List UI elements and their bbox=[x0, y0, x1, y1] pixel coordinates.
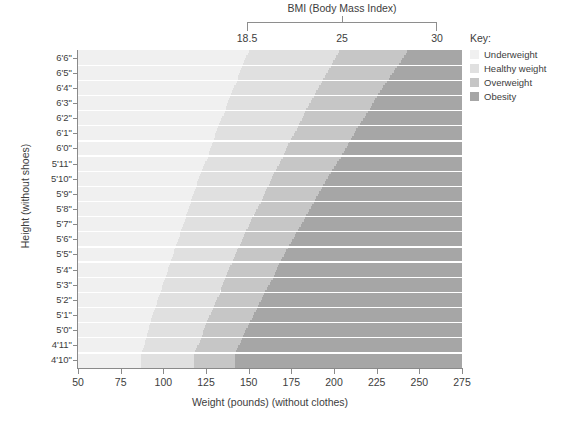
y-axis-tick bbox=[73, 315, 77, 316]
legend-item-label: Healthy weight bbox=[484, 63, 546, 74]
legend-items: UnderweightHealthy weightOverweightObesi… bbox=[470, 49, 566, 102]
legend-item-label: Underweight bbox=[484, 49, 537, 60]
x-axis-tick bbox=[121, 369, 122, 374]
y-axis-tick bbox=[73, 224, 77, 225]
gridline bbox=[78, 352, 462, 353]
y-axis-tick-label: 6'3" bbox=[28, 97, 72, 108]
gridline bbox=[78, 65, 462, 66]
x-axis-tick bbox=[163, 369, 164, 374]
y-axis-tick-label: 5'7" bbox=[28, 218, 72, 229]
legend-swatch-icon bbox=[470, 64, 479, 73]
gridline bbox=[78, 246, 462, 247]
gridline bbox=[78, 292, 462, 293]
y-axis-tick bbox=[73, 88, 77, 89]
gridline bbox=[78, 337, 462, 338]
legend-item: Overweight bbox=[470, 77, 566, 88]
legend-item-label: Obesity bbox=[484, 91, 516, 102]
gridline bbox=[78, 80, 462, 81]
y-axis-tick bbox=[73, 164, 77, 165]
x-axis-tick-label: 275 bbox=[453, 376, 471, 388]
gridline bbox=[78, 322, 462, 323]
y-axis-tick-label: 6'6" bbox=[28, 52, 72, 63]
plot-area bbox=[78, 50, 462, 368]
x-axis-line bbox=[77, 368, 463, 369]
y-axis-tick bbox=[73, 118, 77, 119]
x-axis-tick-label: 100 bbox=[155, 376, 173, 388]
y-axis-tick bbox=[73, 300, 77, 301]
y-axis-tick-label: 6'1" bbox=[28, 127, 72, 138]
gridline bbox=[78, 186, 462, 187]
gridline bbox=[78, 140, 462, 141]
y-axis-tick-label: 5'9" bbox=[28, 188, 72, 199]
y-axis-tick bbox=[73, 73, 77, 74]
y-axis-tick-label: 5'5" bbox=[28, 248, 72, 259]
x-axis-tick bbox=[419, 369, 420, 374]
x-axis-tick bbox=[377, 369, 378, 374]
y-axis-tick-label: 5'10" bbox=[28, 173, 72, 184]
x-axis-tick-label: 50 bbox=[72, 376, 84, 388]
x-axis-tick-label: 175 bbox=[283, 376, 301, 388]
y-axis-tick bbox=[73, 270, 77, 271]
y-axis-tick bbox=[73, 209, 77, 210]
y-axis-tick-label: 5'6" bbox=[28, 233, 72, 244]
gridline bbox=[78, 125, 462, 126]
y-axis-tick bbox=[73, 58, 77, 59]
legend-swatch-icon bbox=[470, 92, 479, 101]
x-axis-tick bbox=[291, 369, 292, 374]
y-axis-tick bbox=[73, 148, 77, 149]
y-axis-title: Height (without shoes) bbox=[19, 101, 31, 291]
y-axis-tick-label: 6'4" bbox=[28, 82, 72, 93]
y-axis-tick-label: 5'8" bbox=[28, 203, 72, 214]
x-axis-tick-label: 125 bbox=[197, 376, 215, 388]
x-axis-tick bbox=[334, 369, 335, 374]
gridline bbox=[78, 277, 462, 278]
bmi-axis-mid-tick bbox=[342, 16, 343, 23]
x-axis-tick-label: 225 bbox=[368, 376, 386, 388]
gridline bbox=[78, 231, 462, 232]
y-axis-tick bbox=[73, 360, 77, 361]
gridline bbox=[78, 95, 462, 96]
y-axis-tick bbox=[73, 103, 77, 104]
y-axis-tick bbox=[73, 239, 77, 240]
x-axis-tick bbox=[249, 369, 250, 374]
y-axis-tick bbox=[73, 254, 77, 255]
y-axis-tick-label: 5'11" bbox=[28, 158, 72, 169]
x-axis-tick bbox=[462, 369, 463, 374]
bmi-chart: BMI (Body Mass Index) 18.52530 6'6"6'5"6… bbox=[0, 0, 566, 421]
x-axis-tick bbox=[206, 369, 207, 374]
y-axis-tick-label: 6'0" bbox=[28, 142, 72, 153]
legend-item: Healthy weight bbox=[470, 63, 566, 74]
y-axis-tick bbox=[73, 345, 77, 346]
gridline bbox=[78, 171, 462, 172]
y-axis-tick-label: 5'2" bbox=[28, 294, 72, 305]
y-axis-tick-label: 6'5" bbox=[28, 67, 72, 78]
y-axis-tick bbox=[73, 133, 77, 134]
x-axis-tick bbox=[78, 369, 79, 374]
gridline bbox=[78, 201, 462, 202]
legend-item: Underweight bbox=[470, 49, 566, 60]
gridline bbox=[78, 307, 462, 308]
gridline bbox=[78, 155, 462, 156]
x-axis-tick-label: 75 bbox=[115, 376, 127, 388]
legend-item: Obesity bbox=[470, 91, 566, 102]
legend-swatch-icon bbox=[470, 78, 479, 87]
y-axis-tick bbox=[73, 194, 77, 195]
x-axis-tick-label: 250 bbox=[411, 376, 429, 388]
bmi-tick-label: 25 bbox=[329, 32, 355, 44]
y-axis-tick-label: 6'2" bbox=[28, 112, 72, 123]
y-axis-tick bbox=[73, 330, 77, 331]
y-axis-tick bbox=[73, 179, 77, 180]
y-axis-tick-label: 5'0" bbox=[28, 324, 72, 335]
legend-swatch-icon bbox=[470, 50, 479, 59]
gridline bbox=[78, 261, 462, 262]
bmi-tick-label: 18.5 bbox=[234, 32, 260, 44]
legend-item-label: Overweight bbox=[484, 77, 532, 88]
bmi-axis-bracket bbox=[247, 22, 437, 31]
y-axis-tick-label: 5'1" bbox=[28, 309, 72, 320]
y-axis-tick-label: 5'3" bbox=[28, 279, 72, 290]
legend-title: Key: bbox=[470, 32, 566, 44]
y-axis-tick bbox=[73, 285, 77, 286]
bmi-tick-label: 30 bbox=[424, 32, 450, 44]
x-axis-title: Weight (pounds) (without clothes) bbox=[78, 396, 462, 408]
y-axis-tick-label: 4'10" bbox=[28, 354, 72, 365]
